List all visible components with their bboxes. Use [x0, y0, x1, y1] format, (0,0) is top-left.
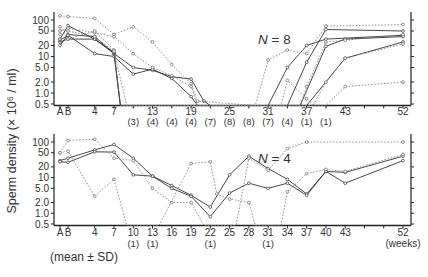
x-unit-label: (weeks)	[385, 238, 420, 249]
data-point-marker	[402, 159, 405, 162]
y-axis-label: Sperm density (× 10⁶ / ml)	[5, 68, 19, 213]
x-tick-label: 19	[186, 227, 198, 238]
series-line	[60, 35, 403, 105]
x-tick-label: 43	[340, 227, 352, 238]
data-point-marker	[170, 184, 173, 187]
data-point-marker	[190, 201, 193, 204]
data-point-marker	[59, 160, 62, 163]
n-annotation: (1)	[147, 238, 159, 249]
data-point-marker	[170, 77, 173, 80]
n-annotation: (1)	[301, 116, 313, 127]
data-point-marker	[59, 151, 62, 154]
data-point-marker	[209, 160, 212, 163]
y-tick-label: 10	[38, 51, 50, 62]
chart-bottom-panel: 1005020105.02.01.00.5AB47101316192225283…	[32, 134, 420, 249]
data-point-marker	[402, 81, 405, 84]
data-point-marker	[190, 78, 193, 81]
data-point-marker	[325, 81, 328, 84]
data-point-marker	[305, 61, 308, 64]
data-point-marker	[267, 169, 270, 172]
data-point-marker	[190, 162, 193, 165]
data-point-marker	[325, 41, 328, 44]
data-point-marker	[402, 23, 405, 26]
n-annotation: (1)	[320, 116, 332, 127]
data-point-marker	[59, 30, 62, 33]
data-point-marker	[209, 206, 212, 209]
y-tick-label: 20	[38, 40, 50, 51]
data-point-marker	[344, 39, 347, 42]
x-tick-label: 4	[92, 227, 98, 238]
x-tick-label: 10	[128, 227, 140, 238]
data-point-marker	[151, 41, 154, 44]
x-tick-label: 43	[340, 106, 352, 117]
data-point-marker	[402, 33, 405, 36]
x-tick-label: 7	[111, 227, 117, 238]
n-annotation: (1)	[205, 238, 217, 249]
n-annotation: (4)	[166, 116, 178, 127]
data-point-marker	[402, 30, 405, 33]
data-point-marker	[132, 73, 135, 76]
data-point-marker	[132, 173, 135, 176]
data-point-marker	[190, 85, 193, 88]
data-point-marker	[402, 141, 405, 144]
series-line	[60, 28, 403, 105]
data-point-marker	[93, 52, 96, 55]
x-tick-label: A	[57, 227, 64, 238]
data-point-marker	[113, 157, 116, 160]
data-point-marker	[151, 175, 154, 178]
data-point-marker	[59, 33, 62, 36]
y-tick-label: 10	[38, 172, 50, 183]
data-point-marker	[93, 35, 96, 38]
n-annotation: (8)	[243, 116, 255, 127]
x-tick-label: 16	[166, 227, 178, 238]
data-point-marker	[344, 57, 347, 60]
data-point-marker	[132, 25, 135, 28]
series-line	[60, 31, 403, 106]
data-point-marker	[170, 63, 173, 66]
x-tick-label: 25	[224, 227, 236, 238]
data-point-marker	[67, 139, 70, 142]
data-point-marker	[286, 190, 289, 193]
x-tick-label: A	[57, 106, 64, 117]
data-point-marker	[267, 59, 270, 62]
series-line	[60, 35, 403, 105]
data-point-marker	[228, 192, 231, 195]
y-tick-label: 1.0	[35, 208, 49, 219]
y-tick-label: 20	[38, 161, 50, 172]
data-point-marker	[113, 178, 116, 181]
data-point-marker	[59, 25, 62, 28]
x-tick-label: 7	[111, 106, 117, 117]
footnote-mean-sd: (mean ± SD)	[50, 250, 118, 264]
data-point-marker	[67, 30, 70, 33]
data-point-marker	[59, 14, 62, 17]
data-point-marker	[170, 74, 173, 77]
data-point-marker	[113, 50, 116, 53]
y-tick-label: 2.0	[35, 197, 49, 208]
data-point-marker	[113, 151, 116, 154]
series-line	[60, 152, 403, 217]
y-tick-label: 5.0	[35, 183, 49, 194]
data-point-marker	[190, 82, 193, 85]
data-point-marker	[305, 52, 308, 55]
y-tick-label: 100	[32, 15, 49, 26]
data-point-marker	[344, 170, 347, 173]
data-point-marker	[132, 159, 135, 162]
data-point-marker	[151, 66, 154, 69]
data-point-marker	[113, 143, 116, 146]
n-annotation: (3)	[127, 116, 139, 127]
data-point-marker	[67, 15, 70, 18]
data-point-marker	[132, 66, 135, 69]
data-point-marker	[286, 147, 289, 150]
data-point-marker	[132, 52, 135, 55]
n-annotation: (7)	[205, 116, 217, 127]
data-point-marker	[67, 27, 70, 30]
n-annotation: (1)	[127, 238, 139, 249]
data-point-marker	[93, 17, 96, 20]
y-tick-label: 2.0	[35, 77, 49, 88]
data-point-marker	[325, 45, 328, 48]
x-tick-label: 37	[301, 227, 313, 238]
data-point-marker	[286, 49, 289, 52]
x-tick-label: 22	[205, 227, 217, 238]
data-point-marker	[325, 28, 328, 31]
y-tick-label: 0.5	[35, 99, 49, 110]
